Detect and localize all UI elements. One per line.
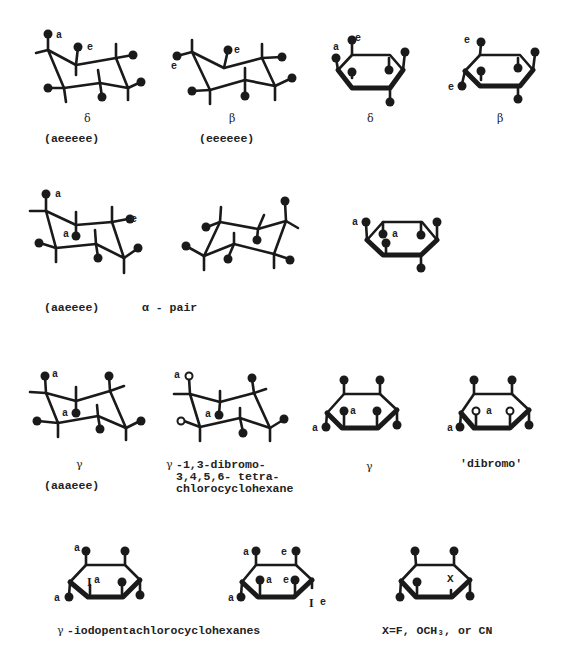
svg-text:I: I — [87, 575, 92, 589]
svg-text:e: e — [355, 33, 361, 44]
config-aaeeee: (aaeeee) — [44, 302, 99, 314]
svg-text:e: e — [171, 61, 177, 72]
svg-text:e: e — [131, 214, 137, 225]
gamma-chair-structure — [30, 376, 140, 440]
svg-text:a: a — [333, 42, 339, 53]
svg-text:a: a — [55, 189, 61, 200]
svg-text:a: a — [54, 593, 60, 604]
svg-text:a: a — [243, 547, 249, 558]
svg-text:e: e — [234, 45, 240, 56]
svg-text:e: e — [464, 35, 470, 46]
svg-text:e: e — [87, 42, 93, 53]
svg-text:e: e — [448, 82, 454, 93]
gamma-symbol-4: γ — [57, 625, 64, 637]
gamma-symbol-3: γ — [366, 461, 373, 473]
svg-text:a: a — [392, 229, 398, 240]
svg-text:a: a — [350, 406, 356, 417]
gamma-haworth-structure — [326, 380, 397, 428]
delta-symbol-1: δ — [84, 113, 91, 125]
svg-text:a: a — [52, 369, 58, 380]
svg-text:a: a — [486, 406, 492, 417]
svg-text:a: a — [62, 408, 68, 419]
beta-symbol-2: β — [497, 113, 503, 125]
iodo-caption: -iodopentachlorocyclohexanes — [67, 625, 260, 637]
delta-haworth-structure — [336, 40, 405, 102]
svg-text:a: a — [56, 30, 62, 41]
svg-text:X: X — [447, 573, 454, 585]
config-eeeeee: (eeeeee) — [199, 133, 254, 145]
svg-text:a: a — [228, 593, 234, 604]
dibromo-haworth-structure — [460, 380, 529, 428]
dibromo-name-line-3: chlorocyclohexane — [176, 483, 293, 495]
gamma-symbol-2: γ — [166, 459, 173, 471]
config-aaaeee: (aaaeee) — [44, 480, 99, 492]
svg-text:e: e — [283, 575, 289, 586]
x-caption: X=F, OCH₃, or CN — [382, 625, 492, 637]
dibromo-quote-label: 'dibromo' — [460, 458, 522, 470]
iodo-haworth-2-structure — [241, 551, 312, 597]
iodo-haworth-1-structure — [69, 551, 140, 597]
svg-text:a: a — [352, 217, 358, 228]
alpha-pair-caption: α - pair — [142, 302, 197, 314]
alpha-haworth-structure — [366, 222, 437, 267]
substituent-dots — [33, 30, 540, 602]
svg-text:a: a — [63, 229, 69, 240]
beta-symbol-1: β — [229, 113, 235, 125]
beta-haworth-structure — [462, 44, 535, 98]
axial-equatorial-labels: ae ee ae ee aae aa aa aa aa aa aaa ae ae… — [52, 30, 492, 608]
alpha-chair-2-structure — [186, 202, 298, 270]
gamma-symbol-1: γ — [76, 459, 83, 471]
diagram-canvas: ae ee ae ee aae aa aa aa aa aa aaa ae ae… — [0, 0, 564, 656]
svg-text:a: a — [174, 370, 180, 381]
alpha-chair-1-structure — [30, 194, 137, 273]
svg-text:a: a — [447, 423, 453, 434]
svg-text:e: e — [281, 547, 287, 558]
svg-text:I: I — [309, 596, 314, 610]
svg-text:a: a — [94, 575, 100, 586]
svg-text:a: a — [312, 423, 318, 434]
delta-symbol-2: δ — [367, 113, 374, 125]
svg-text:a: a — [205, 409, 211, 420]
svg-text:e: e — [320, 597, 326, 608]
config-aeeeee: (aeeeee) — [44, 133, 99, 145]
svg-text:a: a — [74, 543, 80, 554]
gamma-dibromo-chair-structure — [174, 378, 283, 441]
x-haworth-structure — [400, 551, 470, 597]
svg-text:a: a — [266, 575, 272, 586]
